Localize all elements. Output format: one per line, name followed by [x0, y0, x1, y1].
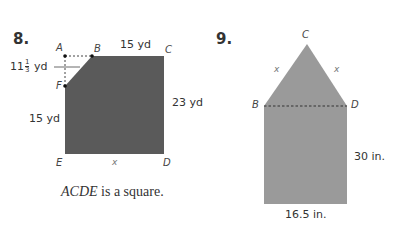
point-F-label: F	[56, 80, 62, 91]
measure-CD-x: x	[334, 64, 339, 74]
point-B-label: B	[94, 43, 101, 54]
measure-CD: 23 yd	[172, 96, 203, 109]
figure-9-rectangle	[264, 106, 347, 204]
measure-FE: 15 yd	[29, 112, 60, 125]
figure-9-triangle	[264, 44, 347, 106]
figure-8-shape	[65, 56, 164, 154]
problem-9-number: 9.	[216, 30, 232, 48]
measure-AF: 1113 yd	[10, 59, 47, 74]
point-D-label: D	[163, 157, 171, 168]
point-D-label-9: D	[351, 99, 359, 110]
problem-8-caption: ACDE is a square.	[61, 184, 164, 200]
problem-8-number: 8.	[13, 30, 29, 48]
measure-height: 30 in.	[354, 150, 385, 163]
point-B-dot	[90, 54, 94, 58]
point-E-label: E	[56, 157, 62, 168]
point-C-label-9: C	[302, 29, 309, 40]
measure-BC-x: x	[274, 64, 279, 74]
point-B-label-9: B	[252, 99, 259, 110]
measure-ED-x: x	[112, 157, 117, 167]
point-F-dot	[63, 84, 67, 88]
measure-width: 16.5 in.	[285, 208, 327, 221]
point-A-dot	[63, 54, 67, 58]
point-C-label: C	[165, 44, 172, 55]
measure-BC: 15 yd	[120, 38, 151, 51]
fraction-one-third: 13	[25, 59, 29, 74]
point-A-label: A	[56, 42, 63, 53]
